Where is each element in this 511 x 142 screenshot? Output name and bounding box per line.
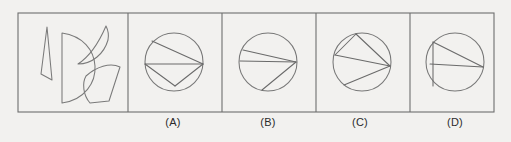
option-c-chord-upper-left — [335, 34, 356, 55]
piece-sliver-triangle — [41, 27, 52, 80]
option-c-chord-top — [356, 34, 390, 66]
option-b-chord-mid — [240, 61, 296, 62]
option-d-circle — [426, 33, 484, 91]
option-c-circle — [333, 33, 391, 91]
option-a-chord-lower-v-right — [175, 64, 203, 86]
option-a-chord-lower-v-left — [145, 64, 175, 86]
option-a-label: (A) — [165, 116, 180, 128]
pieces-panel — [41, 26, 120, 103]
option-d-label: (D) — [447, 116, 463, 128]
option-c-panel[interactable] — [333, 33, 391, 91]
option-b-label: (B) — [260, 116, 275, 128]
shape-assembly-figure: (A) (B) (C) (D) — [0, 0, 511, 142]
piece-sector-fan — [84, 65, 120, 103]
option-b-chord-lower-diagonal — [262, 62, 296, 90]
figure-canvas — [0, 0, 511, 142]
option-d-panel[interactable] — [426, 33, 484, 91]
option-d-chord-horizontal — [430, 64, 483, 67]
outer-frame — [18, 13, 494, 112]
option-c-chord-left-to-vertex — [335, 55, 390, 66]
option-b-chord-upper — [243, 50, 296, 62]
option-c-label: (C) — [352, 116, 368, 128]
option-d-chord-upper-diagonal — [433, 42, 483, 67]
option-b-panel[interactable] — [239, 33, 297, 91]
option-a-panel[interactable] — [145, 33, 203, 91]
option-a-chord-upper-diagonal — [152, 41, 203, 64]
piece-half-disk — [62, 33, 95, 103]
